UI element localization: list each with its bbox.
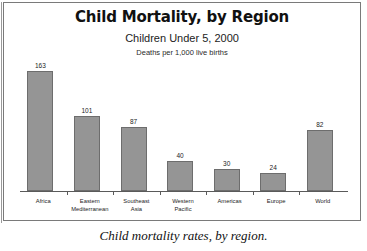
bar-value-label: 82 <box>316 121 323 128</box>
chart-inner: Child Mortality, by Region Children Unde… <box>4 3 360 220</box>
bar-slot: 40 <box>160 58 201 191</box>
bar[interactable] <box>27 71 53 191</box>
bar[interactable] <box>121 127 147 191</box>
bar-value-label: 163 <box>35 62 46 69</box>
bar-slot: 101 <box>67 58 108 191</box>
chart-frame: Child Mortality, by Region Children Unde… <box>3 2 361 221</box>
bar-value-label: 87 <box>130 118 137 125</box>
chart-subtitle: Children Under 5, 2000 <box>4 32 360 44</box>
x-axis-tick <box>206 191 207 195</box>
bar[interactable] <box>260 173 286 191</box>
bar[interactable] <box>307 130 333 191</box>
bar-slot: 24 <box>253 58 294 191</box>
bar-slot: 82 <box>299 58 340 191</box>
figure-caption: Child mortality rates, by region. <box>0 228 367 244</box>
x-axis-tick <box>253 191 254 195</box>
x-axis-label: World <box>295 198 351 206</box>
bar[interactable] <box>74 116 100 191</box>
figure: Child Mortality, by Region Children Unde… <box>0 0 367 251</box>
x-axis-tick <box>299 191 300 195</box>
bar-value-label: 24 <box>270 164 277 171</box>
bar-slot: 30 <box>206 58 247 191</box>
bar[interactable] <box>214 169 240 191</box>
bar-value-label: 101 <box>82 107 93 114</box>
bar-value-label: 30 <box>223 160 230 167</box>
bar[interactable] <box>167 161 193 191</box>
plot-area: 1631018740302482 <box>20 58 346 191</box>
bar-value-label: 40 <box>176 152 183 159</box>
chart-subtitle-units: Deaths per 1,000 live births <box>4 48 360 57</box>
x-axis-tick <box>160 191 161 195</box>
bar-slot: 163 <box>20 58 61 191</box>
bar-slot: 87 <box>113 58 154 191</box>
chart-title: Child Mortality, by Region <box>4 8 360 26</box>
x-axis-tick <box>67 191 68 195</box>
x-axis-tick <box>113 191 114 195</box>
